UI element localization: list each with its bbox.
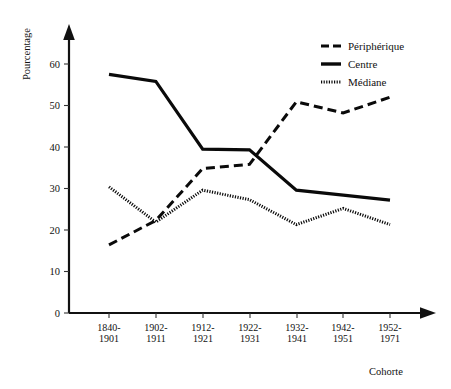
y-axis-title: Pourcentage xyxy=(21,28,32,80)
x-tick-label: 1911 xyxy=(146,333,166,344)
chart-container: 0 10 20 30 40 50 60 Pourcentage 1840- 19… xyxy=(0,0,451,389)
y-tick-label: 20 xyxy=(50,225,61,236)
legend-label-mediane: Médiane xyxy=(348,76,387,88)
y-tick-labels: 0 10 20 30 40 50 60 xyxy=(50,59,61,319)
x-tick-label: 1942- xyxy=(331,322,354,333)
series-line-mediane xyxy=(109,187,390,225)
x-axis xyxy=(69,307,436,319)
x-tick-label: 1912- xyxy=(191,322,214,333)
x-axis-arrowhead xyxy=(420,307,436,319)
series-line-peripherique xyxy=(109,97,390,245)
x-tick-label: 1921 xyxy=(193,333,213,344)
y-tick-label: 60 xyxy=(50,59,61,70)
x-axis-title: Cohorte xyxy=(369,366,403,377)
x-tick-label: 1951 xyxy=(333,333,353,344)
x-tick-label: 1902- xyxy=(144,322,167,333)
y-axis-arrowhead xyxy=(63,24,75,40)
y-tick-label: 0 xyxy=(55,308,60,319)
y-tick-label: 50 xyxy=(50,100,61,111)
x-tick-label: 1941 xyxy=(287,333,307,344)
y-axis xyxy=(63,24,75,313)
x-tick-label: 1931 xyxy=(240,333,260,344)
y-tick-label: 40 xyxy=(50,142,61,153)
x-tick-label: 1840- xyxy=(97,322,120,333)
x-tick-label: 1932- xyxy=(285,322,308,333)
y-tick-label: 10 xyxy=(50,266,61,277)
legend-label-centre: Centre xyxy=(348,58,377,70)
x-tick-labels: 1840- 1901 1902- 1911 1912- 1921 1922- 1… xyxy=(97,322,401,344)
legend: Périphérique Centre Médiane xyxy=(321,40,404,88)
x-tick-label: 1901 xyxy=(99,333,119,344)
x-tick-label: 1922- xyxy=(238,322,261,333)
y-tick-label: 30 xyxy=(50,183,61,194)
x-tick-label: 1971 xyxy=(380,333,400,344)
x-tick-label: 1952- xyxy=(378,322,401,333)
legend-label-peripherique: Périphérique xyxy=(348,40,404,52)
line-chart: 0 10 20 30 40 50 60 Pourcentage 1840- 19… xyxy=(0,0,451,389)
series-line-centre xyxy=(109,74,390,200)
